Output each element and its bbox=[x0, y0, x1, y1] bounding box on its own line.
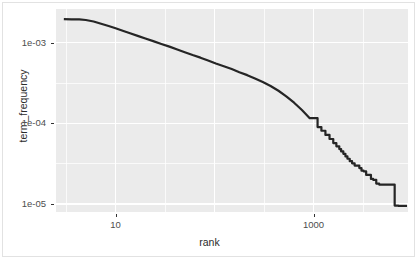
x-tick-label: 1000 bbox=[284, 220, 344, 230]
x-tick-label: 10 bbox=[86, 220, 146, 230]
y-tick-mark bbox=[51, 204, 54, 205]
x-axis-title: rank bbox=[0, 236, 419, 248]
series-line-term-frequency bbox=[56, 9, 408, 212]
plot-panel bbox=[56, 9, 408, 212]
x-tick-mark bbox=[314, 214, 315, 217]
y-tick-label: 1e-04 bbox=[0, 118, 46, 128]
chart-figure: term_frequency 1e-031e-041e-05 101000 ra… bbox=[0, 0, 419, 261]
y-tick-label: 1e-03 bbox=[0, 38, 46, 48]
y-tick-mark bbox=[51, 123, 54, 124]
x-tick-mark bbox=[116, 214, 117, 217]
y-tick-mark bbox=[51, 43, 54, 44]
y-tick-label: 1e-05 bbox=[0, 199, 46, 209]
y-axis-title: term_frequency bbox=[17, 36, 29, 176]
